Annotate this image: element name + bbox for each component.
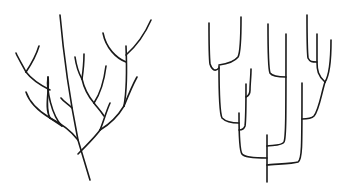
clade-branch	[268, 24, 286, 77]
clade-branch	[209, 23, 219, 70]
tree-branch	[26, 92, 50, 118]
tree-branch	[94, 66, 106, 103]
tree-branch	[78, 130, 100, 154]
natural-tree-branches	[16, 15, 151, 180]
clade-branch	[307, 15, 317, 62]
clade-branch	[325, 40, 331, 82]
cladogram-drawing	[172, 0, 344, 188]
clade-branch	[219, 17, 241, 65]
natural-tree-drawing	[0, 0, 172, 188]
tree-branch	[94, 103, 104, 116]
cladogram-branches	[209, 15, 331, 182]
tree-branch	[126, 20, 151, 55]
clade-branch	[239, 84, 246, 130]
tree-branch	[82, 79, 94, 103]
tree-branch	[75, 57, 82, 79]
natural-tree-panel: Branching tree (natural)	[0, 0, 172, 188]
tree-branch	[60, 15, 90, 180]
clade-branch	[267, 83, 302, 165]
tree-branch	[26, 46, 39, 72]
cladogram-panel: Rectangular cladogram	[172, 0, 344, 188]
clade-branch	[267, 34, 286, 146]
clade-branch	[302, 82, 325, 119]
clade-branch	[219, 66, 239, 123]
tree-branch	[103, 33, 126, 62]
clade-branch	[239, 113, 267, 158]
clade-branch	[317, 34, 325, 82]
tree-branch	[16, 53, 26, 72]
tree-branch	[26, 72, 50, 90]
tree-branch	[82, 54, 84, 79]
